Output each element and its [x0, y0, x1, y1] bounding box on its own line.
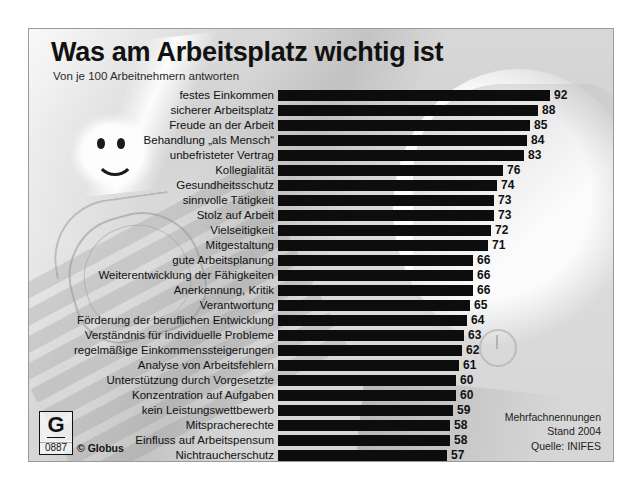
bar-value: 59: [457, 404, 470, 417]
bar-value: 66: [477, 284, 490, 297]
bar: [278, 420, 450, 431]
bar-chart-row: unbefristeter Vertrag83: [29, 149, 614, 164]
note-multiple-answers: Mehrfachnennungen: [505, 410, 601, 425]
bar-label: Förderung der beruflichen Entwicklung: [29, 314, 274, 327]
bar: [278, 375, 456, 386]
bar-label: Gesundheitsschutz: [29, 179, 274, 192]
bar-chart-row: Weiterentwicklung der Fähigkeiten66: [29, 269, 614, 284]
infographic-panel: Was am Arbeitsplatz wichtig ist Von je 1…: [28, 28, 614, 462]
bar-chart-row: Unterstützung durch Vorgesetzte60: [29, 374, 614, 389]
bar: [278, 390, 456, 401]
bar-chart-row: Mitgestaltung71: [29, 239, 614, 254]
bar-label: Freude an der Arbeit: [29, 119, 274, 132]
bar: [278, 360, 459, 371]
page-subtitle: Von je 100 Arbeitnehmern antworten: [53, 70, 239, 82]
bar-value: 58: [454, 434, 467, 447]
bar-label: unbefristeter Vertrag: [29, 149, 274, 162]
bar-chart-row: Verantwortung65: [29, 299, 614, 314]
bar: [278, 180, 497, 191]
bar-value: 71: [492, 239, 505, 252]
bar-chart-row: Behandlung „als Mensch“84: [29, 134, 614, 149]
note-source: Quelle: INIFES: [505, 439, 601, 454]
bar-label: Behandlung „als Mensch“: [29, 134, 274, 147]
bar-chart-row: Förderung der beruflichen Entwicklung64: [29, 314, 614, 329]
bar-chart-row: Gesundheitsschutz74: [29, 179, 614, 194]
bar-chart-row: festes Einkommen92: [29, 89, 614, 104]
bar: [278, 90, 550, 101]
bar: [278, 435, 450, 446]
bar-value: 62: [466, 344, 479, 357]
bar-chart-row: Konzentration auf Aufgaben60: [29, 389, 614, 404]
globus-logo-text: © Globus: [77, 442, 124, 454]
bar: [278, 315, 467, 326]
bar-chart-row: Analyse von Arbeitsfehlern61: [29, 359, 614, 374]
bar-label: sinnvolle Tätigkeit: [29, 194, 274, 207]
note-date: Stand 2004: [505, 424, 601, 439]
bar: [278, 270, 473, 281]
bar-value: 92: [554, 89, 567, 102]
bar-chart-row: Kollegialität76: [29, 164, 614, 179]
bar-value: 65: [474, 299, 487, 312]
bar: [278, 330, 464, 341]
bar-chart-row: sinnvolle Tätigkeit73: [29, 194, 614, 209]
bar-chart-row: regelmäßige Einkommenssteigerungen62: [29, 344, 614, 359]
bar: [278, 240, 488, 251]
bar: [278, 120, 530, 131]
bar-label: Mitgestaltung: [29, 239, 274, 252]
bar-value: 60: [460, 389, 473, 402]
bar-label: Weiterentwicklung der Fähigkeiten: [29, 269, 274, 282]
bar-label: Analyse von Arbeitsfehlern: [29, 359, 274, 372]
bar-chart: festes Einkommen92sicherer Arbeitsplatz8…: [29, 89, 614, 462]
bar-value: 74: [501, 179, 514, 192]
bar-chart-row: Vielseitigkeit72: [29, 224, 614, 239]
bar: [278, 450, 447, 461]
bar-value: 83: [528, 149, 541, 162]
bar-value: 63: [468, 329, 481, 342]
bar-chart-row: Anerkennung, Kritik66: [29, 284, 614, 299]
bar-value: 72: [495, 224, 508, 237]
bar-label: sicherer Arbeitsplatz: [29, 104, 274, 117]
globus-logo-number: 0887: [39, 441, 73, 455]
bar-value: 88: [542, 104, 555, 117]
bar-value: 73: [498, 209, 511, 222]
bar-value: 73: [498, 194, 511, 207]
bar-label: Unterstützung durch Vorgesetzte: [29, 374, 274, 387]
bar-value: 84: [531, 134, 544, 147]
bar-label: regelmäßige Einkommenssteigerungen: [29, 344, 274, 357]
globus-logo-letter: G: [39, 411, 73, 443]
globus-logo: G 0887 © Globus: [39, 411, 179, 455]
page-title: Was am Arbeitsplatz wichtig ist: [51, 37, 443, 68]
bar: [278, 300, 470, 311]
bar-value: 61: [463, 359, 476, 372]
bar-value: 76: [507, 164, 520, 177]
bar-value: 64: [471, 314, 484, 327]
bar-label: Kollegialität: [29, 164, 274, 177]
bar-value: 66: [477, 269, 490, 282]
bar: [278, 405, 453, 416]
bar-value: 66: [477, 254, 490, 267]
bar-value: 60: [460, 374, 473, 387]
bar-label: Konzentration auf Aufgaben: [29, 389, 274, 402]
bar-chart-row: Verständnis für individuelle Probleme63: [29, 329, 614, 344]
bar-chart-row: sicherer Arbeitsplatz88: [29, 104, 614, 119]
bar-label: festes Einkommen: [29, 89, 274, 102]
bar: [278, 345, 462, 356]
bar-label: Verantwortung: [29, 299, 274, 312]
bar: [278, 195, 494, 206]
bar: [278, 210, 494, 221]
bar-label: Anerkennung, Kritik: [29, 284, 274, 297]
bar-chart-row: Stolz auf Arbeit73: [29, 209, 614, 224]
bar: [278, 150, 524, 161]
bar: [278, 135, 527, 146]
bar-chart-row: Freude an der Arbeit85: [29, 119, 614, 134]
bar-value: 58: [454, 419, 467, 432]
bar-label: Stolz auf Arbeit: [29, 209, 274, 222]
bar-chart-row: gute Arbeitsplanung66: [29, 254, 614, 269]
bar-label: gute Arbeitsplanung: [29, 254, 274, 267]
bar: [278, 285, 473, 296]
bar: [278, 255, 473, 266]
bar: [278, 165, 503, 176]
bar-value: 85: [534, 119, 547, 132]
bar: [278, 105, 538, 116]
bar-label: Verständnis für individuelle Probleme: [29, 329, 274, 342]
